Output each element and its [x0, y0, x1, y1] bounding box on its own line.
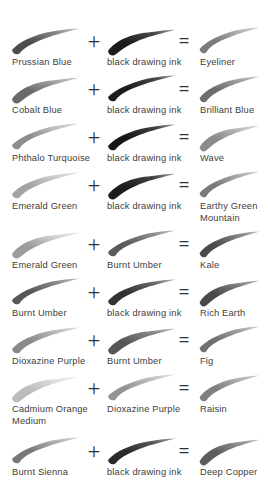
plus-operator-icon: + — [83, 174, 105, 197]
brush-stroke-swatch-icon — [196, 373, 262, 403]
swatch-cell-pigment-a: Emerald Green — [8, 229, 92, 259]
brush-stroke-swatch-icon — [196, 436, 262, 466]
swatch-cell-pigment-a: Cobalt Blue — [8, 74, 92, 104]
swatch-cell-result: Eyeliner — [196, 26, 266, 56]
swatch-label: Deep Copper — [200, 467, 257, 479]
plus-operator-icon: + — [83, 440, 105, 463]
swatch-label: Wave — [200, 153, 224, 165]
swatch-cell-result: Kale — [196, 229, 266, 259]
swatch-label: Burnt Umber — [107, 260, 162, 272]
plus-operator-icon: + — [83, 329, 105, 352]
equals-operator-icon: = — [172, 31, 196, 50]
swatch-cell-pigment-a: Phthalo Turquoise — [8, 122, 92, 152]
brush-stroke-swatch-icon — [196, 277, 262, 307]
swatch-cell-pigment-a: Emerald Green — [8, 170, 92, 200]
equals-operator-icon: = — [172, 234, 196, 253]
swatch-label: Burnt Umber — [12, 308, 67, 320]
swatch-cell-pigment-a: Burnt Umber — [8, 277, 92, 307]
swatch-chart-sheet: Prussian Blue black drawing ink — [0, 0, 268, 504]
swatch-label: Raisin — [200, 404, 227, 416]
brush-stroke-swatch-icon — [8, 277, 82, 307]
brush-stroke-swatch-icon — [104, 436, 178, 466]
swatch-cell-result: Brilliant Blue — [196, 74, 266, 104]
swatch-cell-result: Raisin — [196, 373, 266, 403]
swatch-label: black drawing ink — [107, 467, 181, 479]
swatch-cell-pigment-a: Dioxazine Purple — [8, 325, 92, 355]
swatch-cell-result: Earthy Green Mountain — [196, 170, 266, 200]
brush-stroke-swatch-icon — [196, 74, 262, 104]
equals-operator-icon: = — [172, 441, 196, 460]
brush-stroke-swatch-icon — [104, 325, 178, 355]
swatch-label: Burnt Sienna — [12, 467, 68, 479]
equals-operator-icon: = — [172, 127, 196, 146]
brush-stroke-swatch-icon — [8, 373, 82, 403]
brush-stroke-swatch-icon — [8, 436, 82, 466]
brush-stroke-swatch-icon — [8, 229, 82, 259]
brush-stroke-swatch-icon — [104, 277, 178, 307]
brush-stroke-swatch-icon — [104, 26, 178, 56]
swatch-label: Emerald Green — [12, 260, 77, 272]
swatch-cell-result: Wave — [196, 122, 266, 152]
brush-stroke-swatch-icon — [104, 373, 178, 403]
brush-stroke-swatch-icon — [8, 26, 82, 56]
brush-stroke-swatch-icon — [196, 229, 262, 259]
swatch-label: Prussian Blue — [12, 57, 72, 69]
swatch-label: black drawing ink — [107, 57, 181, 69]
brush-stroke-swatch-icon — [196, 170, 262, 200]
swatch-label: Cobalt Blue — [12, 105, 62, 117]
equals-operator-icon: = — [172, 79, 196, 98]
swatch-label: black drawing ink — [107, 308, 181, 320]
plus-operator-icon: + — [83, 377, 105, 400]
plus-operator-icon: + — [83, 30, 105, 53]
equals-operator-icon: = — [172, 330, 196, 349]
brush-stroke-swatch-icon — [196, 325, 262, 355]
swatch-label: Phthalo Turquoise — [12, 153, 90, 165]
swatch-cell-result: Deep Copper — [196, 436, 266, 466]
plus-operator-icon: + — [83, 78, 105, 101]
plus-operator-icon: + — [83, 281, 105, 304]
swatch-label: Cadmium Orange Medium — [12, 404, 88, 427]
brush-stroke-swatch-icon — [104, 229, 178, 259]
brush-stroke-swatch-icon — [8, 325, 82, 355]
brush-stroke-swatch-icon — [8, 122, 82, 152]
swatch-cell-result: Fig — [196, 325, 266, 355]
swatch-label: black drawing ink — [107, 201, 181, 213]
brush-stroke-swatch-icon — [104, 170, 178, 200]
brush-stroke-swatch-icon — [104, 122, 178, 152]
brush-stroke-swatch-icon — [8, 170, 82, 200]
plus-operator-icon: + — [83, 126, 105, 149]
swatch-label: Dioxazine Purple — [12, 356, 85, 368]
equals-operator-icon: = — [172, 282, 196, 301]
swatch-label: Earthy Green Mountain — [200, 201, 258, 224]
equals-operator-icon: = — [172, 175, 196, 194]
swatch-label: Fig — [200, 356, 213, 368]
swatch-cell-pigment-a: Burnt Sienna — [8, 436, 92, 466]
swatch-label: Brilliant Blue — [200, 105, 254, 117]
swatch-cell-pigment-a: Prussian Blue — [8, 26, 92, 56]
equals-operator-icon: = — [172, 378, 196, 397]
swatch-label: Emerald Green — [12, 201, 77, 213]
brush-stroke-swatch-icon — [104, 74, 178, 104]
swatch-label: Eyeliner — [200, 57, 235, 69]
swatch-label: Burnt Umber — [107, 356, 162, 368]
swatch-label: black drawing ink — [107, 153, 181, 165]
swatch-label: Kale — [200, 260, 219, 272]
swatch-cell-result: Rich Earth — [196, 277, 266, 307]
swatch-label: Dioxazine Purple — [107, 404, 180, 416]
brush-stroke-swatch-icon — [196, 122, 262, 152]
swatch-label: black drawing ink — [107, 105, 181, 117]
brush-stroke-swatch-icon — [8, 74, 82, 104]
brush-stroke-swatch-icon — [196, 26, 262, 56]
swatch-cell-pigment-a: Cadmium Orange Medium — [8, 373, 92, 403]
plus-operator-icon: + — [83, 233, 105, 256]
swatch-label: Rich Earth — [200, 308, 245, 320]
